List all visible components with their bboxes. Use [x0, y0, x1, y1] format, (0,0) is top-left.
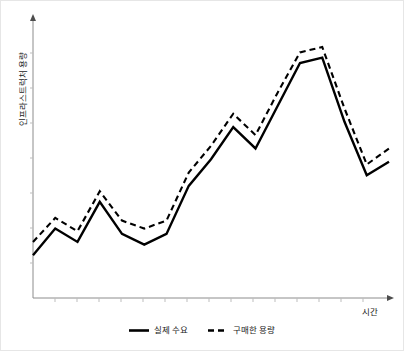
legend-label-purchased-capacity: 구매한 용량	[233, 326, 275, 335]
chart-figure: 인프라스트럭처 용량 시간 실제 수요 구매한 용량	[0, 0, 404, 351]
x-axis-arrow-icon	[387, 295, 394, 301]
x-axis-ticks	[55, 298, 363, 302]
legend-label-actual-demand: 실제 수요	[154, 326, 188, 335]
line-chart-canvas	[1, 1, 404, 351]
solid-line-swatch-icon	[129, 326, 149, 335]
y-axis-arrow-icon	[30, 14, 36, 21]
legend-item-actual-demand[interactable]: 실제 수요	[129, 326, 188, 335]
x-axis-label: 시간	[362, 308, 378, 317]
y-axis-label: 인프라스트럭처 용량	[19, 29, 28, 149]
legend-item-purchased-capacity[interactable]: 구매한 용량	[208, 326, 275, 335]
series-line-actual-demand	[33, 58, 389, 256]
chart-legend: 실제 수요 구매한 용량	[1, 326, 403, 335]
series-line-purchased-capacity	[33, 47, 389, 242]
dashed-line-swatch-icon	[208, 326, 228, 335]
